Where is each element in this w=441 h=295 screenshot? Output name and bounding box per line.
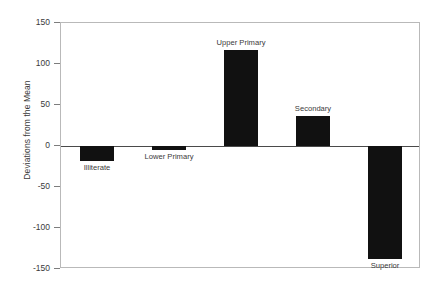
- bar: [152, 146, 186, 150]
- y-tick-label: -150: [0, 263, 50, 273]
- bar: [368, 146, 402, 259]
- y-tick-label: -50: [0, 181, 50, 191]
- y-tick-label: 50: [0, 99, 50, 109]
- y-tick-mark: [54, 268, 60, 269]
- y-axis-title: Deviations from the Mean: [20, 0, 34, 260]
- bar-label: Secondary: [295, 104, 331, 113]
- chart-figure: Deviations from the Mean 150100500-50-10…: [0, 0, 441, 295]
- bar: [224, 50, 258, 146]
- y-tick-label: -100: [0, 222, 50, 232]
- bar-label: Superior: [371, 261, 400, 270]
- bar-label: Upper Primary: [217, 38, 266, 47]
- y-tick-label: 0: [0, 140, 50, 150]
- plot-area: IlliterateLower PrimaryUpper PrimarySeco…: [60, 22, 420, 268]
- bar-label: Illiterate: [84, 163, 111, 172]
- y-tick-label: 150: [0, 17, 50, 27]
- y-tick-label: 100: [0, 58, 50, 68]
- bar: [296, 116, 330, 146]
- bar-label: Lower Primary: [145, 152, 194, 161]
- bar: [80, 146, 114, 161]
- zero-baseline: [61, 146, 419, 147]
